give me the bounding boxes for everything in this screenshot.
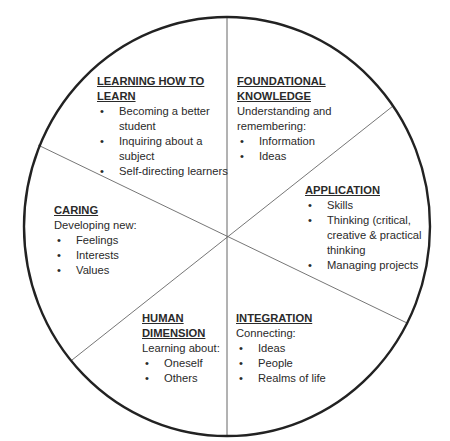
segment-title: APPLICATION	[305, 183, 429, 198]
item-list: Ideas People Realms of life	[236, 341, 346, 386]
segment-intro: Learning about:	[142, 341, 226, 356]
title-line: FOUNDATIONAL	[237, 75, 326, 87]
segment-title: HUMAN DIMENSION	[142, 311, 226, 341]
segment-title: LEARNING HOW TO LEARN	[97, 74, 227, 104]
list-item: Information	[237, 134, 357, 149]
item-list: Becoming a better student Inquiring abou…	[97, 104, 227, 179]
list-item: Interests	[54, 248, 164, 263]
segment-foundational-knowledge: FOUNDATIONAL KNOWLEDGE Understanding and…	[237, 74, 357, 164]
list-item: People	[236, 356, 346, 371]
segment-title: CARING	[54, 203, 164, 218]
list-item: Becoming a better student	[97, 104, 219, 134]
segment-title: INTEGRATION	[236, 311, 346, 326]
segment-human-dimension: HUMAN DIMENSION Learning about: Oneself …	[142, 311, 226, 386]
title-line: DIMENSION	[142, 327, 205, 339]
list-item: Skills	[305, 198, 429, 213]
list-item: Oneself	[142, 356, 226, 371]
title-line: HUMAN	[142, 312, 184, 324]
title-line: LEARNING HOW TO	[97, 75, 204, 87]
segment-intro: Understanding and remembering:	[237, 104, 349, 134]
list-item: Others	[142, 371, 226, 386]
list-item: Ideas	[236, 341, 346, 356]
title-line: KNOWLEDGE	[237, 90, 311, 102]
segment-title: FOUNDATIONAL KNOWLEDGE	[237, 74, 357, 104]
item-list: Feelings Interests Values	[54, 233, 164, 278]
item-list: Skills Thinking (critical, creative & pr…	[305, 198, 429, 273]
segment-learning-how-to-learn: LEARNING HOW TO LEARN Becoming a better …	[97, 74, 227, 179]
title-line: LEARN	[97, 90, 136, 102]
list-item: Realms of life	[236, 371, 346, 386]
item-list: Oneself Others	[142, 356, 226, 386]
list-item: Inquiring about a subject	[97, 134, 219, 164]
segment-intro: Developing new:	[54, 218, 164, 233]
item-list: Information Ideas	[237, 134, 357, 164]
segment-intro: Connecting:	[236, 326, 346, 341]
list-item: Self-directing learners	[97, 164, 227, 179]
segment-integration: INTEGRATION Connecting: Ideas People Rea…	[236, 311, 346, 386]
list-item: Ideas	[237, 149, 357, 164]
list-item: Thinking (critical, creative & practical…	[305, 213, 425, 258]
segment-application: APPLICATION Skills Thinking (critical, c…	[305, 183, 429, 273]
segment-caring: CARING Developing new: Feelings Interest…	[54, 203, 164, 278]
list-item: Feelings	[54, 233, 164, 248]
list-item: Managing projects	[305, 258, 429, 273]
list-item: Values	[54, 263, 164, 278]
